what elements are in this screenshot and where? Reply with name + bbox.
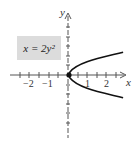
tick-label-1: 1 [85, 79, 90, 89]
equation-label-box: x = 2y² [17, 36, 61, 60]
y-axis-label: y [60, 7, 65, 18]
graph-canvas [0, 0, 139, 150]
tick-label-2: 2 [104, 79, 109, 89]
vertex-point [66, 72, 71, 77]
tick-label-neg1: −1 [42, 79, 53, 89]
tick-label-neg2: −2 [23, 79, 34, 89]
equation-label: x = 2y² [23, 42, 55, 54]
x-axis-label: x [126, 77, 131, 88]
